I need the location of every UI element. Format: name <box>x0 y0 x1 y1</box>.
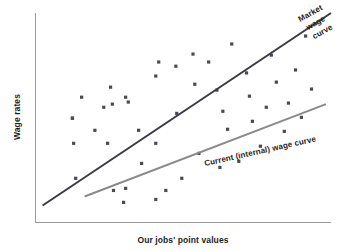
scatter-dot <box>80 96 83 99</box>
current-curve-label: Current (internal) wage curve <box>203 134 317 168</box>
scatter-dot <box>157 60 160 63</box>
chart-canvas: Wage rates Our jobs' point values Market… <box>0 0 358 251</box>
scatter-dot <box>122 201 125 204</box>
scatter-points-group <box>71 34 313 204</box>
scatter-dot <box>124 187 127 190</box>
scatter-dot <box>275 81 278 84</box>
scatter-dot <box>164 189 167 192</box>
scatter-dot <box>191 52 194 55</box>
scatter-dot <box>127 100 130 103</box>
scatter-dot <box>112 189 115 192</box>
market-wage-curve-line <box>43 13 331 206</box>
x-axis-label: Our jobs' point values <box>137 235 228 245</box>
scatter-dot <box>310 87 313 90</box>
scatter-dot <box>287 101 290 104</box>
scatter-dot <box>72 142 75 145</box>
wage-curve-chart: Wage rates Our jobs' point values Market… <box>0 0 358 251</box>
scatter-dot <box>221 110 224 113</box>
scatter-dot <box>109 86 112 89</box>
scatter-dot <box>174 65 177 68</box>
scatter-dot <box>102 106 105 109</box>
scatter-dot <box>180 177 183 180</box>
scatter-dot <box>207 60 210 63</box>
market-curve-annotation: Market wage curve <box>297 3 335 43</box>
scatter-dot <box>230 42 233 45</box>
current-wage-curve-line <box>85 104 326 196</box>
scatter-dot <box>124 96 127 99</box>
scatter-dot <box>245 71 248 74</box>
scatter-dot <box>251 120 254 123</box>
scatter-dot <box>154 142 157 145</box>
scatter-dot <box>71 117 74 120</box>
scatter-dot <box>300 116 303 119</box>
y-axis-label: Wage rates <box>12 94 22 140</box>
scatter-dot <box>111 103 114 106</box>
scatter-dot <box>294 68 297 71</box>
scatter-dot <box>248 95 251 98</box>
scatter-dot <box>93 129 96 132</box>
scatter-dot <box>154 198 157 201</box>
scatter-dot <box>304 34 307 37</box>
scatter-dot <box>140 162 143 165</box>
scatter-dot <box>193 83 196 86</box>
current-curve-annotation: Current (internal) wage curve <box>203 134 317 168</box>
scatter-dot <box>226 128 229 131</box>
scatter-dot <box>137 129 140 132</box>
scatter-dot <box>283 130 286 133</box>
scatter-dot <box>106 142 109 145</box>
scatter-dot <box>154 74 157 77</box>
scatter-dot <box>265 106 268 109</box>
scatter-dot <box>218 166 221 169</box>
scatter-dot <box>74 177 77 180</box>
